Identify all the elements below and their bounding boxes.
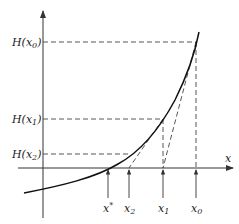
label-x0: x0 bbox=[191, 202, 202, 216]
label-H-x2: H(x2) bbox=[11, 148, 41, 162]
label-xstar: x* bbox=[103, 201, 113, 215]
label-H-x0: H(x0) bbox=[11, 36, 41, 50]
label-x2: x2 bbox=[124, 202, 135, 216]
label-H-x1: H(x1) bbox=[11, 113, 41, 127]
label-x-axis: x bbox=[225, 152, 232, 165]
function-curve bbox=[24, 32, 199, 193]
newton-method-diagram: H(x0) H(x1) H(x2) x x* x2 x1 x0 bbox=[0, 0, 239, 224]
label-x1: x1 bbox=[158, 202, 169, 216]
